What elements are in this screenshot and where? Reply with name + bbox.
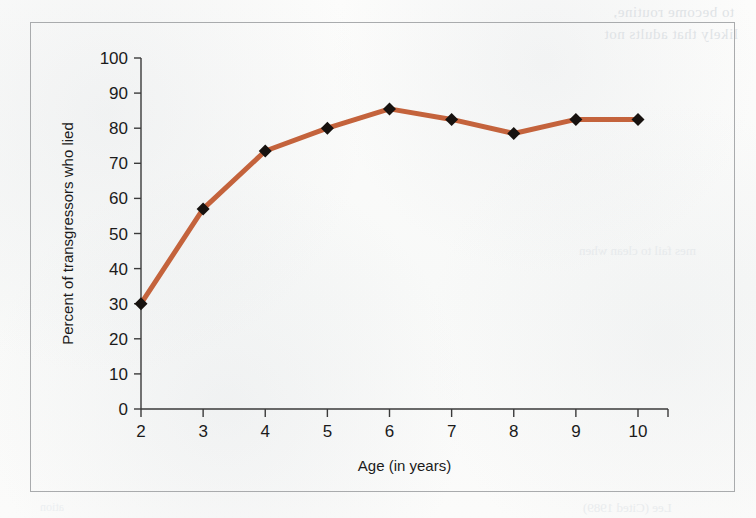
x-axis: 2345678910 [136, 409, 668, 441]
series-line [141, 109, 638, 304]
y-tick-label: 30 [109, 295, 128, 314]
y-tick-label: 100 [100, 49, 128, 68]
y-tick-label: 80 [109, 119, 128, 138]
x-axis-title: Age (in years) [358, 457, 451, 474]
data-point-marker [632, 113, 645, 126]
y-tick-label: 40 [109, 260, 128, 279]
y-tick-label: 90 [109, 84, 128, 103]
data-point-marker [445, 113, 458, 126]
showthrough-text-line5: ation [40, 500, 64, 515]
x-tick-label: 2 [136, 422, 145, 441]
y-axis-title: Percent of transgressors who lied [59, 122, 76, 345]
data-series [135, 102, 645, 310]
x-tick-label: 3 [198, 422, 207, 441]
data-point-marker [569, 113, 582, 126]
x-tick-label: 10 [629, 422, 648, 441]
showthrough-text-line4: Lee (Cited 1989) [583, 500, 672, 516]
y-tick-label: 70 [109, 154, 128, 173]
line-chart: 0102030405060708090100 2345678910 Age (i… [31, 23, 734, 491]
figure-frame: 0102030405060708090100 2345678910 Age (i… [30, 22, 735, 492]
x-tick-label: 6 [385, 422, 394, 441]
y-tick-label: 20 [109, 330, 128, 349]
x-tick-label: 5 [323, 422, 332, 441]
x-tick-label: 8 [509, 422, 518, 441]
showthrough-text-line1: to become routine, [613, 4, 734, 21]
data-point-marker [321, 122, 334, 135]
chart-svg: 0102030405060708090100 2345678910 Age (i… [31, 23, 736, 493]
x-tick-label: 4 [261, 422, 270, 441]
y-tick-label: 10 [109, 365, 128, 384]
data-point-marker [507, 127, 520, 140]
y-tick-label: 60 [109, 189, 128, 208]
x-tick-label: 9 [571, 422, 580, 441]
y-axis: 0102030405060708090100 [100, 49, 141, 419]
y-tick-label: 50 [109, 225, 128, 244]
data-point-marker [383, 102, 396, 115]
y-tick-label: 0 [119, 400, 128, 419]
x-tick-label: 7 [447, 422, 456, 441]
